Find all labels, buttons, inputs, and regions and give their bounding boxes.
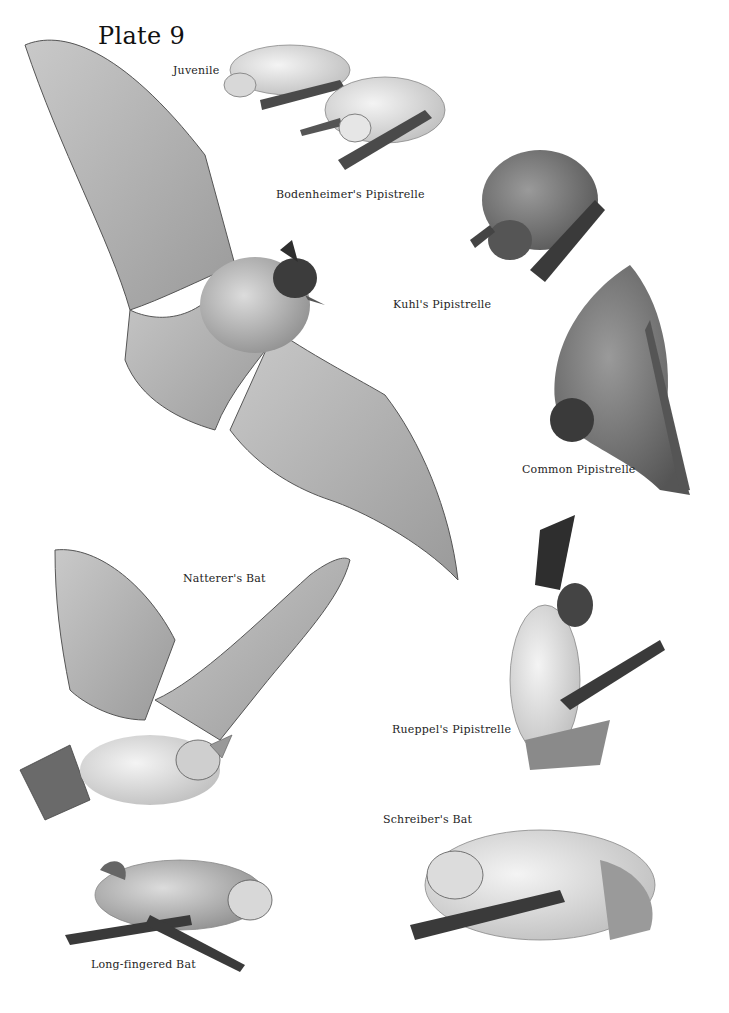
common-pipistrelle-illustration: [550, 265, 690, 495]
label-common-pipistrelle: Common Pipistrelle: [522, 463, 636, 476]
natterers-bat-illustration: [20, 550, 350, 820]
label-natterers-bat: Natterer's Bat: [183, 572, 266, 585]
rueppels-pipistrelle-illustration: [510, 515, 665, 770]
label-kuhls-pipistrelle: Kuhl's Pipistrelle: [393, 298, 491, 311]
long-fingered-bat-illustration: [65, 860, 272, 972]
label-rueppels-pipistrelle: Rueppel's Pipistrelle: [392, 723, 511, 736]
schreibers-bat-illustration: [410, 830, 655, 940]
kuhls-pipistrelle-illustration: [470, 150, 605, 282]
plate-illustrations: [0, 0, 729, 1013]
label-juvenile: Juvenile: [173, 64, 219, 77]
label-schreibers-bat: Schreiber's Bat: [383, 813, 472, 826]
label-bodenheimers-pipistrelle: Bodenheimer's Pipistrelle: [276, 188, 425, 201]
label-long-fingered-bat: Long-fingered Bat: [91, 958, 196, 971]
plate-title: Plate 9: [98, 22, 185, 50]
